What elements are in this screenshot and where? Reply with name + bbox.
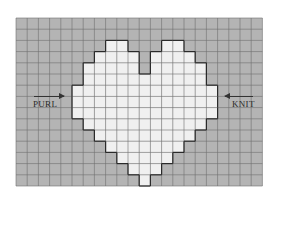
motif-cell — [139, 175, 150, 186]
motif-cell — [139, 96, 150, 107]
motif-cell — [83, 119, 94, 130]
motif-cell — [106, 74, 117, 85]
motif-cell — [195, 74, 206, 85]
motif-cell — [106, 40, 117, 51]
motif-cell — [128, 119, 139, 130]
motif-cell — [162, 74, 173, 85]
motif-cell — [128, 74, 139, 85]
motif-cell — [128, 130, 139, 141]
motif-cell — [83, 85, 94, 96]
motif-cell — [94, 85, 105, 96]
motif-cell — [173, 63, 184, 74]
motif-cell — [150, 119, 161, 130]
motif-cell — [162, 141, 173, 152]
motif-cell — [106, 119, 117, 130]
motif-cell — [150, 52, 161, 63]
motif-cell — [117, 40, 128, 51]
motif-cell — [106, 63, 117, 74]
motif-cell — [128, 164, 139, 175]
motif-cell — [150, 63, 161, 74]
motif-cell — [94, 63, 105, 74]
motif-cell — [139, 108, 150, 119]
motif-cell — [206, 108, 217, 119]
motif-cell — [128, 85, 139, 96]
motif-cell — [173, 40, 184, 51]
motif-cell — [150, 74, 161, 85]
motif-cell — [150, 108, 161, 119]
motif-cell — [128, 141, 139, 152]
motif-cell — [72, 96, 83, 107]
motif-cell — [117, 152, 128, 163]
motif-cell — [173, 119, 184, 130]
motif-cell — [184, 74, 195, 85]
motif-cell — [117, 52, 128, 63]
motif-cell — [139, 141, 150, 152]
motif-cell — [83, 63, 94, 74]
motif-cell — [173, 108, 184, 119]
motif-cell — [184, 119, 195, 130]
motif-cell — [117, 96, 128, 107]
motif-cell — [173, 74, 184, 85]
motif-cell — [106, 96, 117, 107]
motif-cell — [117, 108, 128, 119]
motif-cell — [150, 96, 161, 107]
motif-cell — [139, 152, 150, 163]
motif-cell — [72, 108, 83, 119]
motif-cell — [195, 63, 206, 74]
purl-direction-arrow-icon — [34, 96, 64, 97]
motif-cell — [72, 85, 83, 96]
motif-cell — [83, 108, 94, 119]
motif-cell — [128, 96, 139, 107]
motif-cell — [173, 141, 184, 152]
motif-cell — [128, 108, 139, 119]
motif-cell — [94, 108, 105, 119]
motif-cell — [94, 52, 105, 63]
motif-cell — [162, 152, 173, 163]
motif-cell — [94, 130, 105, 141]
motif-cell — [173, 130, 184, 141]
motif-cell — [150, 141, 161, 152]
motif-cell — [139, 130, 150, 141]
motif-cell — [162, 63, 173, 74]
motif-cell — [184, 52, 195, 63]
motif-cell — [162, 119, 173, 130]
motif-cell — [117, 130, 128, 141]
motif-cell — [184, 130, 195, 141]
motif-cell — [150, 164, 161, 175]
motif-cell — [184, 63, 195, 74]
motif-cell — [184, 85, 195, 96]
knit-label: KNIT — [232, 99, 255, 109]
motif-cell — [139, 85, 150, 96]
motif-cell — [106, 108, 117, 119]
motif-cell — [83, 74, 94, 85]
motif-cell — [162, 52, 173, 63]
motif-cell — [106, 52, 117, 63]
motif-cell — [150, 152, 161, 163]
knit-direction-arrow-icon — [225, 96, 253, 97]
motif-cell — [162, 40, 173, 51]
motif-cell — [139, 119, 150, 130]
motif-cell — [139, 164, 150, 175]
motif-cell — [162, 108, 173, 119]
motif-cell — [173, 85, 184, 96]
motif-cell — [128, 152, 139, 163]
motif-cell — [162, 130, 173, 141]
motif-cell — [83, 96, 94, 107]
motif-cell — [117, 141, 128, 152]
motif-cell — [128, 52, 139, 63]
motif-cell — [117, 85, 128, 96]
motif-cell — [184, 96, 195, 107]
motif-cell — [150, 130, 161, 141]
motif-cell — [94, 74, 105, 85]
motif-cell — [150, 85, 161, 96]
motif-cell — [117, 119, 128, 130]
motif-cell — [184, 108, 195, 119]
motif-cell — [128, 63, 139, 74]
motif-cell — [195, 85, 206, 96]
motif-cell — [206, 96, 217, 107]
motif-cell — [173, 52, 184, 63]
motif-cell — [106, 85, 117, 96]
motif-cell — [162, 96, 173, 107]
motif-cell — [195, 119, 206, 130]
motif-cell — [195, 108, 206, 119]
